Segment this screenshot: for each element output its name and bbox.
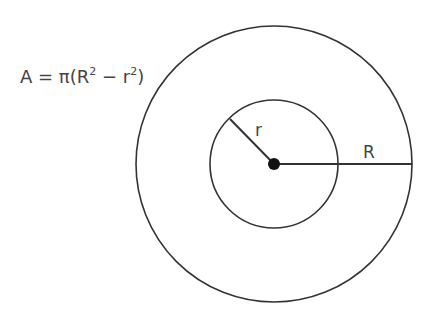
outer-radius-label: R — [363, 142, 375, 162]
annulus-diagram: r R A = π(R2 − r2) — [0, 0, 429, 319]
center-point — [268, 158, 280, 170]
area-formula: A = π(R2 − r2) — [20, 65, 144, 87]
inner-radius-label: r — [255, 120, 262, 140]
inner-radius-line — [230, 119, 274, 164]
